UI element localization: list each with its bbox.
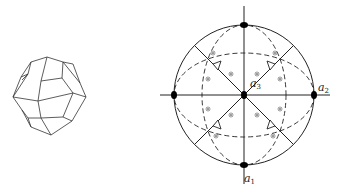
triangle-nw-icon [213, 61, 221, 70]
pole-left-icon [171, 91, 177, 99]
crystal-polyhedron-icon [0, 0, 130, 192]
triangle-ne-icon [267, 61, 275, 70]
triangle-sw-icon [213, 120, 221, 129]
pole-top-icon [240, 22, 248, 28]
triangle-se-icon [267, 120, 275, 129]
axis-label-a1: a1 [244, 172, 255, 186]
stereographic-projection: a3 a2 a1 [150, 0, 341, 192]
pole-bottom-icon [240, 162, 248, 168]
pole-center-icon [241, 91, 247, 99]
stereogram-diagram: a3 a2 a1 [150, 0, 341, 192]
pole-right-icon [311, 91, 317, 99]
axis-label-a2: a2 [318, 81, 329, 95]
crystal-drawing [0, 0, 130, 192]
